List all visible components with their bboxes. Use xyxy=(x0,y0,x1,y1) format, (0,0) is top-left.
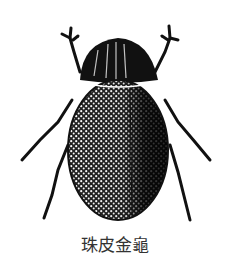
beetle-figure: 珠皮金龜 xyxy=(0,0,230,259)
beetle-illustration xyxy=(0,0,230,259)
figure-caption: 珠皮金龜 xyxy=(0,231,230,256)
